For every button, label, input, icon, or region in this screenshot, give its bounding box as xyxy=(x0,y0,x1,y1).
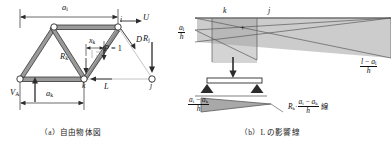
force-arrow-U xyxy=(120,18,142,23)
influence-band-kj xyxy=(212,18,257,63)
label-b-node-k: k xyxy=(223,6,227,15)
force-arrow-D xyxy=(121,29,136,50)
truss-members xyxy=(20,25,120,82)
reaction-arrow-Rj xyxy=(149,42,155,73)
label-ai: ai xyxy=(62,3,68,12)
beam-bar xyxy=(207,78,262,83)
joint-top-left xyxy=(51,24,57,30)
ordinate-right-l-minus-ai-over-h: l − ai h xyxy=(360,58,377,75)
joint-i xyxy=(115,24,121,30)
label-load-P: P = 1 xyxy=(104,44,122,53)
label-node-i: i xyxy=(120,15,122,24)
ordinate-left-ai-over-h: ai h xyxy=(178,24,185,41)
label-node-k: k xyxy=(82,81,85,90)
label-force-Rk: Rk xyxy=(60,52,68,61)
label-force-D: D xyxy=(136,35,142,44)
plus-sign: + xyxy=(240,22,245,32)
label-node-j: j xyxy=(150,81,152,90)
panel-a-drawing xyxy=(0,0,196,144)
label-b-node-j: j xyxy=(268,6,270,15)
caption-panel-a: （a）自由物体図 xyxy=(40,126,101,137)
label-reaction-Rj: Rj xyxy=(143,34,150,43)
force-arrow-L xyxy=(90,76,112,81)
annotation-Rk-line: Rk· ai − ak h 線 xyxy=(288,98,328,115)
figure-root: ai ak i k j U D L Rk Rj VA xk P = 1 （a）自… xyxy=(0,0,391,144)
label-ak: ak xyxy=(46,89,53,98)
label-offset-xk: xk xyxy=(89,36,95,45)
label-reaction-VA: VA xyxy=(10,88,19,97)
label-force-L: L xyxy=(104,82,109,91)
ordinate-ai-minus-ak-over-h: ai − ak h xyxy=(188,96,209,113)
label-force-U: U xyxy=(143,13,149,22)
joint-A xyxy=(17,76,23,82)
small-influence-triangle xyxy=(201,98,283,112)
support-left xyxy=(201,84,214,93)
support-right xyxy=(251,84,264,93)
caption-panel-b: （b）L の影響線 xyxy=(240,126,300,137)
